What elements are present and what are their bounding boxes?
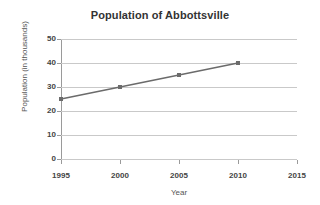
- y-tick-mark-10: [57, 135, 61, 136]
- plot-area: [61, 39, 297, 159]
- x-tick-label-1995: 1995: [41, 172, 81, 180]
- y-tick-label-20: 20: [32, 107, 56, 115]
- y-tick-mark-40: [57, 63, 61, 64]
- data-point-2000: [118, 85, 122, 89]
- data-point-2010: [236, 61, 240, 65]
- x-tick-mark-2005: [179, 160, 180, 164]
- x-tick-label-2000: 2000: [100, 172, 140, 180]
- data-point-2005: [177, 73, 181, 77]
- y-tick-label-50: 50: [32, 35, 56, 43]
- x-tick-mark-2010: [238, 160, 239, 164]
- y-tick-label-10: 10: [32, 131, 56, 139]
- x-tick-label-2015: 2015: [277, 172, 317, 180]
- chart-container: Population of Abbottsville Population (i…: [0, 0, 320, 205]
- data-point-1995: [59, 97, 63, 101]
- y-tick-mark-50: [57, 39, 61, 40]
- y-tick-label-40: 40: [32, 59, 56, 67]
- y-tick-label-0: 0: [32, 155, 56, 163]
- x-tick-label-2010: 2010: [218, 172, 258, 180]
- y-tick-label-30: 30: [32, 83, 56, 91]
- y-tick-mark-20: [57, 111, 61, 112]
- data-series-line: [61, 39, 297, 159]
- x-tick-label-2005: 2005: [159, 172, 199, 180]
- x-tick-mark-1995: [61, 160, 62, 164]
- x-tick-mark-2000: [120, 160, 121, 164]
- x-axis-title: Year: [61, 188, 297, 197]
- y-tick-mark-30: [57, 87, 61, 88]
- x-tick-mark-2015: [297, 160, 298, 164]
